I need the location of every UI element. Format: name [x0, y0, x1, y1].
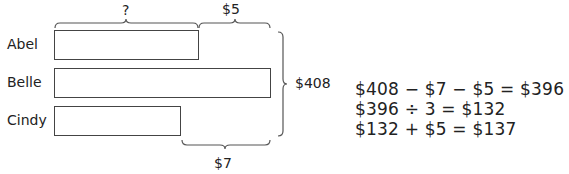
equation-3: $132 + $5 = $137 — [355, 119, 516, 139]
unknown-label: ? — [122, 2, 129, 18]
brace-difference — [199, 19, 270, 28]
bottom-brace-label: $7 — [214, 155, 232, 171]
equation-2: $396 ÷ 3 = $132 — [355, 99, 505, 119]
brace-total — [278, 32, 287, 136]
brace-bottom — [182, 140, 270, 149]
equation-1: $408 − $7 − $5 = $396 — [355, 79, 564, 99]
total-label: $408 — [295, 75, 331, 91]
bar-model-diagram: Abel Belle Cindy ? $5 $408 $7 $408 − $7 … — [0, 0, 569, 174]
brace-unknown — [55, 19, 198, 28]
difference-label: $5 — [222, 1, 240, 17]
